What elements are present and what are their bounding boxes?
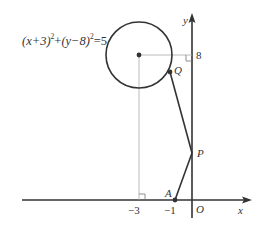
label-A: A <box>164 187 172 199</box>
tick-label-y-8: 8 <box>196 49 202 61</box>
circle-center-point <box>137 53 142 58</box>
point-A <box>173 198 178 203</box>
right-angle-mark-y <box>186 55 192 61</box>
right-angle-mark-x <box>139 194 145 200</box>
segment-PA <box>175 153 192 200</box>
geometry-diagram: (x+3)2+(y−8)2=5 y x O 8 −3 −1 Q P A <box>0 0 270 231</box>
label-P: P <box>196 147 204 159</box>
diagram-canvas: (x+3)2+(y−8)2=5 y x O 8 −3 −1 Q P A <box>0 0 270 231</box>
origin-label: O <box>196 203 204 215</box>
circle-equation: (x+3)2+(y−8)2=5 <box>22 32 107 48</box>
y-axis <box>189 13 196 218</box>
tick-label-x-minus1: −1 <box>164 204 176 216</box>
x-axis-label: x <box>237 204 243 216</box>
label-Q: Q <box>174 64 182 76</box>
tick-label-x-minus3: −3 <box>128 204 140 216</box>
point-Q <box>168 70 173 75</box>
x-axis <box>22 197 252 204</box>
segment-QP <box>170 72 192 153</box>
y-axis-label: y <box>182 14 188 26</box>
